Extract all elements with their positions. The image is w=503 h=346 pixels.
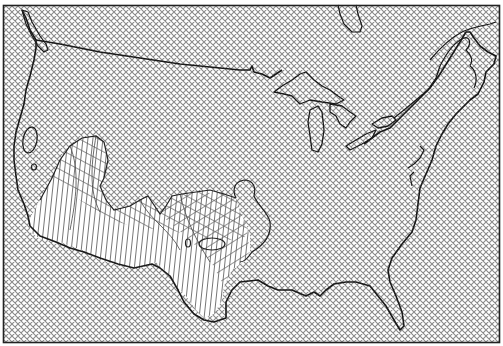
- map-figure: [0, 0, 503, 346]
- map-canvas: [0, 0, 503, 346]
